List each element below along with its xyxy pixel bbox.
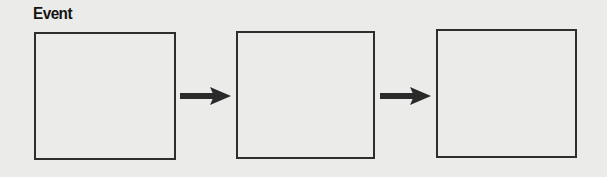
flow-box-2 bbox=[236, 31, 375, 159]
arrow-right-icon bbox=[178, 86, 234, 106]
diagram-page: Event bbox=[0, 0, 607, 177]
diagram-title: Event bbox=[33, 4, 72, 24]
flow-box-3 bbox=[436, 29, 577, 158]
arrow-right-icon bbox=[378, 86, 434, 106]
flow-box-1 bbox=[34, 32, 176, 160]
